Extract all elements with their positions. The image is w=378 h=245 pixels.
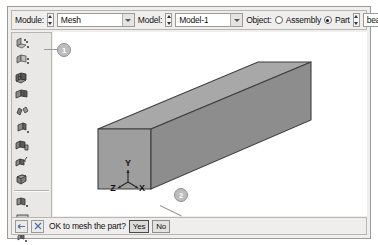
object-part-radio[interactable] — [324, 16, 332, 24]
module-spinner-icon[interactable] — [47, 13, 54, 27]
object-label: Object: — [246, 15, 272, 25]
delete-part-mesh-icon[interactable] — [13, 103, 32, 120]
seed-and-mesh-group — [13, 35, 50, 188]
yes-button[interactable]: Yes — [129, 220, 149, 233]
object-part-label: Part — [335, 15, 350, 25]
module-label: Module: — [15, 15, 44, 25]
callout-1-leader — [44, 49, 57, 50]
context-bar: Module: Mesh Model: Model-1 Object: Asse… — [11, 10, 367, 30]
module-chevron-down-icon[interactable] — [122, 14, 134, 26]
mesh-sweep-path-icon[interactable] — [13, 171, 32, 188]
assign-mesh-controls-icon[interactable] — [13, 137, 32, 154]
module-combobox[interactable]: Mesh — [57, 13, 135, 27]
mesh-module-toolbox — [11, 32, 52, 235]
model-combobox[interactable]: Model-1 — [175, 13, 243, 27]
abaqus-cae-window: Module: Mesh Model: Model-1 Object: Asse… — [7, 6, 371, 239]
module-value: Mesh — [58, 15, 81, 25]
toolbox-separator — [14, 190, 49, 192]
model-value: Model-1 — [176, 15, 208, 25]
svg-text:Z: Z — [110, 183, 116, 193]
part-spinner-icon[interactable] — [353, 13, 360, 27]
part-value: beam — [364, 15, 378, 25]
callout-1: 1 — [57, 43, 71, 57]
object-assembly-radio[interactable] — [275, 16, 283, 24]
prompt-bar: OK to mesh the part? Yes No — [11, 217, 367, 235]
model-spinner-icon[interactable] — [165, 13, 172, 27]
prompt-message: OK to mesh the part? — [49, 221, 126, 231]
callout-2: 2 — [174, 188, 188, 202]
delete-region-mesh-icon[interactable] — [13, 120, 32, 137]
model-chevron-down-icon[interactable] — [230, 14, 242, 26]
cancel-x-icon[interactable] — [31, 220, 44, 233]
beam-3d-render: Y X Z — [53, 32, 367, 216]
model-label: Model: — [138, 15, 162, 25]
no-button[interactable]: No — [152, 220, 170, 233]
verify-mesh-icon[interactable] — [13, 194, 32, 211]
model-viewport[interactable]: Y X Z — [53, 32, 367, 216]
mesh-part-instance-icon[interactable] — [13, 69, 32, 86]
assign-element-type-icon[interactable] — [13, 154, 32, 171]
svg-text:Y: Y — [125, 158, 131, 168]
object-assembly-label: Assembly — [286, 15, 321, 25]
mesh-region-icon[interactable] — [13, 86, 32, 103]
part-combobox[interactable]: beam — [363, 13, 378, 27]
seed-part-instance-icon[interactable] — [13, 35, 32, 52]
svg-text:X: X — [139, 183, 145, 193]
back-arrow-icon[interactable] — [15, 220, 28, 233]
seed-edges-icon[interactable] — [13, 52, 32, 69]
